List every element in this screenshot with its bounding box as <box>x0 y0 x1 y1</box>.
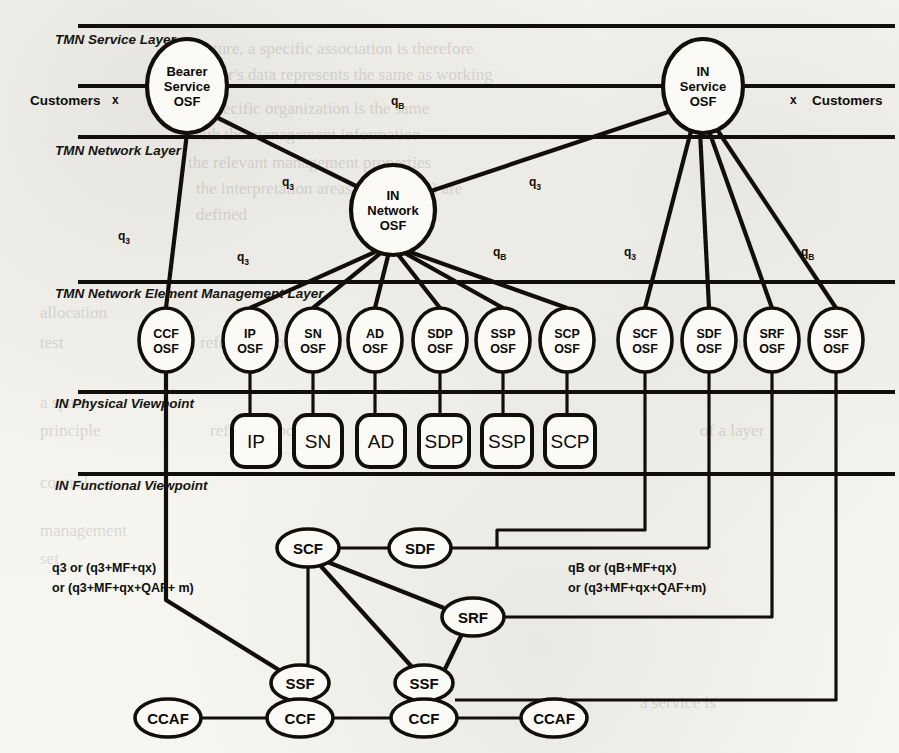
bearer-service-osf-label: Service <box>164 79 210 94</box>
node-group: BearerServiceOSFINServiceOSFINNetworkOSF… <box>135 39 863 737</box>
interface-label-subscript: 3 <box>536 182 541 192</box>
sn-box[interactable]: SN <box>294 415 342 467</box>
sdf-node[interactable]: SDF <box>389 529 451 567</box>
ccaf-node-2-label: CCAF <box>533 710 575 727</box>
ip-osf-label: OSF <box>237 342 263 356</box>
interface-label-subscript: 3 <box>125 236 130 246</box>
right-interface-annotation-line1: qB or (qB+MF+qx) <box>568 561 676 575</box>
layer-label-nem: TMN Network Element Management Layer <box>55 286 324 301</box>
in-network-osf-label: OSF <box>380 218 407 233</box>
interface-label-base: q <box>237 250 244 264</box>
ssf-osf-label: SSF <box>824 327 849 341</box>
ip-box[interactable]: IP <box>232 415 280 467</box>
interface-label-q-bearer-right: qB <box>391 94 404 111</box>
ad-osf-label: OSF <box>362 342 388 356</box>
scf-osf-label: SCF <box>633 327 658 341</box>
srf-node-label: SRF <box>458 609 488 626</box>
ip-osf-label: IP <box>244 327 256 341</box>
sn-osf-label: OSF <box>300 342 326 356</box>
ssf-node-1[interactable]: SSF <box>271 665 329 701</box>
sn-osf-label: SN <box>304 327 321 341</box>
sdf-osf[interactable]: SDFOSF <box>682 308 736 372</box>
ssf-osf[interactable]: SSFOSF <box>809 308 863 372</box>
sdp-box[interactable]: SDP <box>419 415 469 467</box>
in-service-osf[interactable]: INServiceOSF <box>663 39 743 133</box>
ccf-node-1-label: CCF <box>285 710 316 727</box>
ssp-osf-label: OSF <box>490 342 516 356</box>
ad-osf[interactable]: ADOSF <box>348 308 402 372</box>
srf-osf[interactable]: SRFOSF <box>745 308 799 372</box>
ssp-osf-label: SSP <box>490 327 515 341</box>
bearer-service-osf[interactable]: BearerServiceOSF <box>147 39 227 133</box>
scp-box-label: SCP <box>550 431 589 452</box>
connector-in-service-to-in-network <box>428 112 668 192</box>
interface-label-base: q <box>282 175 289 189</box>
sdp-osf-label: OSF <box>427 342 453 356</box>
scp-box[interactable]: SCP <box>545 415 595 467</box>
sdf-osf-label: OSF <box>696 342 722 356</box>
in-network-osf[interactable]: INNetworkOSF <box>351 165 435 255</box>
sdf-node-label: SDF <box>405 540 435 557</box>
layer-label-functional: IN Functional Viewpoint <box>55 478 208 493</box>
interface-label-q3-left-a: q3 <box>282 175 294 192</box>
scp-osf-label: SCP <box>554 327 580 341</box>
figure-canvas: structure, a specific association is the… <box>0 0 899 753</box>
sdf-osf-label: SDF <box>697 327 722 341</box>
interface-label-q3-ccf: q3 <box>118 229 130 246</box>
ad-box-label: AD <box>368 431 394 452</box>
ssf-node-2[interactable]: SSF <box>395 665 453 701</box>
interface-label-base: q <box>529 175 536 189</box>
sdp-osf[interactable]: SDPOSF <box>413 308 467 372</box>
ad-box[interactable]: AD <box>357 415 405 467</box>
in-network-osf-label: IN <box>387 188 400 203</box>
ssp-box[interactable]: SSP <box>482 415 532 467</box>
left-interface-annotation-line2: or (q3+MF+qx+QAF+ m) <box>52 581 194 595</box>
in-service-osf-label: OSF <box>690 94 717 109</box>
left-interface-annotation: q3 or (q3+MF+qx)or (q3+MF+qx+QAF+ m) <box>52 561 194 595</box>
customers-label-left: Customers <box>30 93 101 108</box>
ccaf-node-1[interactable]: CCAF <box>135 699 201 737</box>
ssf-osf-label: OSF <box>823 342 849 356</box>
ssp-box-label: SSP <box>488 431 526 452</box>
ccaf-node-1-label: CCAF <box>147 710 189 727</box>
ip-osf[interactable]: IPOSF <box>223 308 277 372</box>
interface-label-base: q <box>624 245 631 259</box>
ssf-node-1-label: SSF <box>285 675 314 692</box>
customers-x-right: x <box>790 93 797 107</box>
srf-node[interactable]: SRF <box>442 598 504 636</box>
annotation-group: q3 or (q3+MF+qx)or (q3+MF+qx+QAF+ m)qB o… <box>52 561 706 595</box>
interface-label-subscript: 3 <box>289 182 294 192</box>
ccf-osf-label: OSF <box>153 342 179 356</box>
srf-osf-label: SRF <box>760 327 785 341</box>
interface-label-base: q <box>391 94 398 108</box>
sn-osf[interactable]: SNOSF <box>286 308 340 372</box>
scf-node[interactable]: SCF <box>277 529 339 567</box>
interface-label-base: q <box>801 245 808 259</box>
sdp-osf-label: SDP <box>427 327 453 341</box>
interface-label-subscript: B <box>500 252 506 262</box>
scp-osf-label: OSF <box>554 342 580 356</box>
ccf-osf[interactable]: CCFOSF <box>139 308 193 372</box>
scf-osf-label: OSF <box>632 342 658 356</box>
ccf-node-1[interactable]: CCF <box>267 699 333 737</box>
ad-osf-label: AD <box>366 327 384 341</box>
interface-label-subscript: 3 <box>244 257 249 267</box>
customers-x-left: x <box>112 93 119 107</box>
customers-label-right: Customers <box>812 93 883 108</box>
ssp-osf[interactable]: SSPOSF <box>476 308 530 372</box>
layer-label-service: TMN Service Layer <box>55 32 177 47</box>
right-interface-annotation: qB or (qB+MF+qx)or (q3+MF+qx+QAF+m) <box>568 561 706 595</box>
ccaf-node-2[interactable]: CCAF <box>521 699 587 737</box>
in-service-osf-label: Service <box>680 79 726 94</box>
right-interface-annotation-line2: or (q3+MF+qx+QAF+m) <box>568 581 706 595</box>
ip-box-label: IP <box>247 431 265 452</box>
scp-osf[interactable]: SCPOSF <box>540 308 594 372</box>
sdp-box-label: SDP <box>424 431 463 452</box>
bearer-service-osf-label: OSF <box>174 94 201 109</box>
layer-label-physical: IN Physical Viewpoint <box>55 396 195 411</box>
interface-label-q3-right-a: q3 <box>529 175 541 192</box>
interface-label-qB-innet: qB <box>493 245 506 262</box>
interface-label-subscript: 3 <box>631 252 636 262</box>
scf-osf[interactable]: SCFOSF <box>618 308 672 372</box>
ccf-node-2[interactable]: CCF <box>391 699 457 737</box>
